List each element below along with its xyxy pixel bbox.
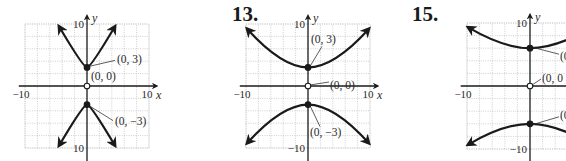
vertex-point bbox=[527, 121, 533, 127]
graph-15-svg: −1010−10y(0(0, 0(0 bbox=[0, 0, 566, 161]
y-min-tick-label: −10 bbox=[510, 143, 528, 155]
point-label: (0 bbox=[560, 50, 566, 63]
center-point bbox=[527, 83, 533, 89]
x-min-tick-label: −10 bbox=[454, 88, 472, 100]
vertex-point bbox=[527, 45, 533, 51]
y-max-tick-label: 10 bbox=[516, 17, 528, 29]
y-axis-label: y bbox=[534, 10, 541, 24]
leader-line bbox=[532, 79, 541, 85]
point-label: (0 bbox=[560, 109, 566, 122]
point-label: (0, 0 bbox=[542, 72, 563, 85]
